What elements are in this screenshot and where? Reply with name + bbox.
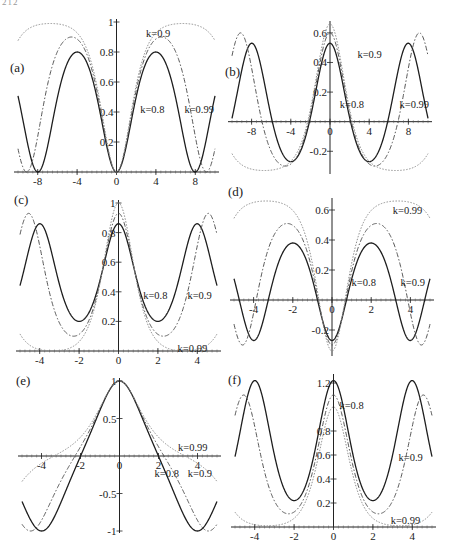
x-tick-label: 4 bbox=[410, 530, 416, 542]
x-tick-label: 0 bbox=[331, 530, 337, 542]
x-tick-label: -4 bbox=[73, 175, 83, 187]
x-tick-label: 0 bbox=[116, 354, 122, 366]
series-label: k=0.8 bbox=[352, 277, 376, 288]
x-tick-label: 4 bbox=[195, 354, 201, 366]
x-tick-label: 2 bbox=[155, 354, 161, 366]
series-label: k=0.9 bbox=[399, 452, 423, 463]
series-label: k=0.8 bbox=[143, 290, 167, 301]
y-tick-label: 0.6 bbox=[100, 76, 114, 88]
x-tick-label: 8 bbox=[193, 175, 199, 187]
series-label: k=0.99 bbox=[184, 104, 214, 115]
panel-d: -4-2024-0.20.20.40.6k=0.8k=0.9k=0.99(d) bbox=[228, 184, 434, 356]
x-tick-label: 4 bbox=[366, 125, 372, 137]
x-tick-label: 4 bbox=[153, 175, 159, 187]
x-tick-label: -2 bbox=[288, 303, 297, 315]
x-tick-label: -2 bbox=[75, 354, 84, 366]
series-label: k=0.99 bbox=[178, 442, 208, 453]
series-label: k=0.8 bbox=[140, 104, 164, 115]
series-label: k=0.99 bbox=[391, 515, 421, 526]
panel-label: (f) bbox=[228, 372, 241, 387]
panel-f: -4-20240.20.40.60.81.2k=0.8k=0.9k=0.99(f… bbox=[228, 372, 436, 542]
panel-label: (e) bbox=[16, 373, 30, 388]
x-tick-label: 2 bbox=[368, 303, 374, 315]
x-tick-label: 0 bbox=[114, 175, 120, 187]
series-label: k=0.9 bbox=[401, 277, 425, 288]
x-tick-label: 0 bbox=[117, 459, 123, 471]
y-tick-label: 0.6 bbox=[317, 449, 331, 461]
x-tick-label: 8 bbox=[406, 125, 412, 137]
panel-b: -8-4048-0.20.20.40.6k=0.8k=0.9k=0.99(b) bbox=[225, 21, 432, 174]
panel-a: -8-40480.20.40.60.81k=0.8k=0.9k=0.99(a) bbox=[10, 16, 219, 187]
y-tick-label: -1 bbox=[107, 525, 116, 537]
y-tick-label: 0.4 bbox=[317, 473, 331, 485]
y-tick-label: 1 bbox=[108, 16, 114, 28]
x-tick-label: 0 bbox=[329, 303, 335, 315]
y-tick-label: 0.2 bbox=[315, 264, 329, 276]
panel-label: (a) bbox=[10, 60, 24, 75]
y-tick-label: 0.2 bbox=[102, 315, 116, 327]
x-tick-label: -8 bbox=[247, 125, 257, 137]
y-tick-label: -0.5 bbox=[99, 488, 117, 500]
y-tick-label: 0.4 bbox=[315, 234, 329, 246]
y-tick-label: 0.8 bbox=[100, 46, 114, 58]
x-tick-label: -4 bbox=[35, 354, 45, 366]
y-tick-label: 0.5 bbox=[103, 413, 117, 425]
series-label: k=0.9 bbox=[188, 468, 212, 479]
panel-e: -4-2024-1-0.50.51k=0.8k=0.9k=0.99(e) bbox=[16, 373, 221, 537]
y-tick-label: 1 bbox=[111, 375, 117, 387]
series-label: k=0.8 bbox=[155, 468, 179, 479]
series-label: k=0.99 bbox=[400, 99, 430, 110]
x-tick-label: -4 bbox=[250, 530, 260, 542]
y-tick-label: -0.2 bbox=[310, 145, 327, 157]
panel-label: (b) bbox=[225, 64, 240, 79]
series-label: k=0.99 bbox=[393, 205, 423, 216]
y-tick-label: 0.4 bbox=[102, 286, 116, 298]
series-label: k=0.8 bbox=[339, 400, 363, 411]
x-tick-label: -2 bbox=[290, 530, 299, 542]
panel-label: (d) bbox=[228, 184, 243, 199]
x-tick-label: -4 bbox=[249, 303, 259, 315]
series-label: k=0.9 bbox=[146, 28, 170, 39]
panel-label: (c) bbox=[14, 192, 28, 207]
x-tick-label: 0 bbox=[327, 125, 333, 137]
x-tick-label: -8 bbox=[33, 175, 43, 187]
series-label: k=0.99 bbox=[178, 343, 208, 354]
series-label: k=0.9 bbox=[187, 290, 211, 301]
x-tick-label: 2 bbox=[370, 530, 376, 542]
y-tick-label: 0.6 bbox=[315, 204, 329, 216]
x-tick-label: -4 bbox=[286, 125, 296, 137]
series-label: k=0.9 bbox=[357, 49, 381, 60]
series-label: k=0.8 bbox=[340, 99, 364, 110]
figure: -8-40480.20.40.60.81k=0.8k=0.9k=0.99(a) … bbox=[0, 0, 449, 557]
y-tick-label: 0.2 bbox=[317, 497, 331, 509]
panel-c: -4-20240.20.40.60.81k=0.8k=0.9k=0.99(c) bbox=[14, 192, 221, 366]
